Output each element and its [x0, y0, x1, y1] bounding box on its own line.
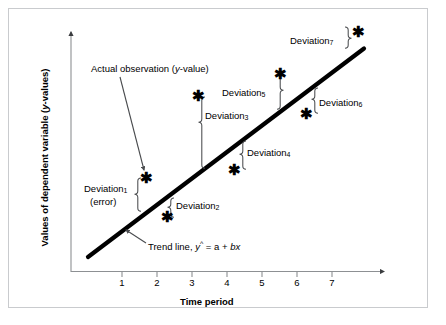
x-tick-label: 1: [115, 277, 129, 288]
trend-line: [88, 49, 364, 258]
x-tick-label: 5: [255, 277, 269, 288]
deviation-bracket-7: [345, 27, 352, 48]
deviation-label-4: Deviation4: [247, 148, 291, 159]
deviation-label-6: Deviation6: [319, 98, 363, 109]
deviation-label-1: Deviation1: [84, 184, 128, 195]
x-tick-label: 6: [290, 277, 304, 288]
data-point-marker: ✱: [274, 66, 284, 81]
x-tick-label: 4: [220, 277, 234, 288]
observation-callout-arrow: [120, 77, 144, 170]
data-point-marker: ✱: [300, 106, 310, 121]
x-axis-title: Time period: [180, 296, 234, 307]
trend-line-annotation: Trend line, y^ = a + bx: [148, 240, 240, 252]
deviation-label-5: Deviation5: [222, 88, 266, 99]
data-point-marker: ✱: [352, 24, 362, 39]
deviation-bracket-3: [199, 97, 206, 168]
x-tick-label: 3: [185, 277, 199, 288]
x-tick-label: 7: [325, 277, 339, 288]
deviation-brackets: [135, 27, 352, 217]
y-axis-title: Values of dependent variable (y-values): [39, 48, 50, 268]
chart-plot-area: ✱ ✱ ✱ ✱ ✱ ✱ ✱ Deviation1 (error) Deviati…: [0, 0, 446, 325]
deviation-label-3: Deviation3: [205, 111, 249, 122]
data-point-marker: ✱: [140, 170, 150, 185]
data-point-marker: ✱: [228, 162, 238, 177]
data-point-marker: ✱: [161, 209, 171, 224]
deviation-label-7: Deviation7: [290, 36, 334, 47]
x-tick-label: 2: [150, 277, 164, 288]
actual-observation-annotation: Actual observation (y-value): [91, 64, 209, 74]
trendline-callout-arrow: [126, 230, 146, 243]
deviation-error-note: (error): [90, 197, 116, 207]
deviation-label-2: Deviation2: [176, 201, 220, 212]
data-point-marker: ✱: [192, 88, 202, 103]
